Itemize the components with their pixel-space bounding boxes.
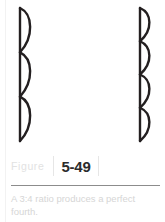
left-loop-2 bbox=[20, 52, 30, 96]
right-loop-1 bbox=[140, 8, 149, 41]
figure-label-row: Figure 5-49 bbox=[0, 152, 165, 180]
right-loop-4 bbox=[140, 108, 149, 141]
left-string-3-loops bbox=[20, 8, 30, 141]
figure-number-separator-left bbox=[53, 156, 54, 176]
figure-page: Figure 5-49 A 3:4 ratio produces a perfe… bbox=[0, 0, 165, 222]
figure-caption-text: A 3:4 ratio produces a perfect fourth. bbox=[11, 192, 161, 218]
right-loop-2 bbox=[140, 41, 149, 74]
figure-number-separator-right bbox=[98, 156, 99, 176]
left-loop-1 bbox=[20, 8, 30, 52]
figure-caption-block: Figure 5-49 A 3:4 ratio produces a perfe… bbox=[0, 152, 165, 180]
standing-wave-illustration bbox=[0, 0, 165, 150]
caption-divider-rule bbox=[11, 185, 160, 186]
right-loop-3 bbox=[140, 75, 149, 108]
figure-word-label: Figure bbox=[11, 161, 44, 172]
right-string-4-loops bbox=[140, 8, 149, 141]
left-loop-3 bbox=[20, 97, 30, 141]
figure-number: 5-49 bbox=[61, 159, 90, 174]
